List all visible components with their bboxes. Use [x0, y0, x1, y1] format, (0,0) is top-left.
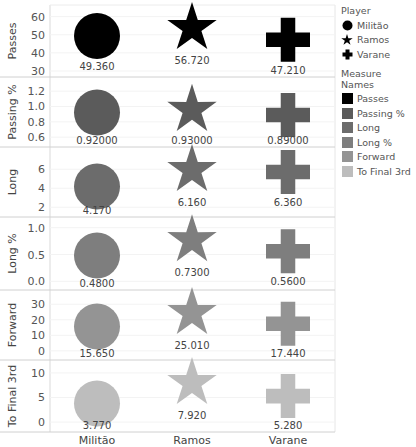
data-label: 4.170	[83, 205, 112, 216]
data-label: 7.920	[178, 410, 207, 421]
y-tick-label: 0	[38, 416, 45, 429]
cross-mark[interactable]	[266, 150, 310, 194]
data-label: 56.720	[175, 55, 210, 66]
legend-label: Long %	[357, 137, 392, 148]
x-tick-label: Ramos	[173, 434, 211, 447]
legend-label: Varane	[357, 49, 390, 60]
cross-mark[interactable]	[266, 18, 310, 62]
y-tick-label: 6	[38, 163, 45, 176]
star-mark[interactable]	[167, 144, 216, 191]
legend-label: Forward	[357, 151, 395, 162]
legend-item-varane[interactable]: Varane	[341, 47, 416, 62]
star-mark[interactable]	[167, 357, 216, 404]
color-swatch-icon	[342, 166, 353, 177]
star-mark[interactable]	[167, 287, 216, 334]
legend-label: To Final 3rd	[357, 166, 411, 177]
color-swatch-icon	[342, 93, 353, 104]
cross-mark[interactable]	[266, 93, 310, 137]
data-label: 0.7300	[175, 267, 210, 278]
color-swatch-icon	[342, 122, 353, 133]
data-label: 0.5600	[271, 276, 306, 287]
data-label: 0.4800	[80, 278, 115, 289]
y-tick-label: 50	[31, 29, 45, 42]
color-swatch-icon	[342, 137, 353, 148]
color-swatch-icon	[342, 151, 353, 162]
data-label: 25.010	[175, 340, 210, 351]
data-label: 47.210	[271, 65, 306, 76]
y-axis-label: Passing %	[6, 84, 19, 139]
data-label: 6.360	[274, 197, 303, 208]
legend-measure-title: Measure Names	[341, 68, 416, 90]
legend-item-long[interactable]: Long	[341, 121, 416, 136]
legend-label: Passing %	[357, 108, 405, 119]
y-axis-label: To Final 3rd	[6, 365, 19, 428]
star-icon	[341, 34, 353, 46]
cross-mark[interactable]	[266, 302, 310, 346]
y-tick-label: 0.5	[28, 249, 46, 262]
legend-item-passing-pct[interactable]: Passing %	[341, 106, 416, 121]
legend-item-to-final-3rd[interactable]: To Final 3rd	[341, 164, 416, 179]
y-tick-label: 0.0	[28, 275, 46, 288]
y-tick-label: 1.0	[28, 100, 46, 113]
y-tick-label: 10	[31, 329, 45, 342]
legend-item-ramos[interactable]: Ramos	[341, 33, 416, 48]
data-label: 0.89000	[267, 135, 308, 146]
data-label: 5.280	[274, 420, 303, 431]
legend: Player Militão Ramos Varane Measure Name…	[341, 5, 416, 179]
color-swatch-icon	[342, 108, 353, 119]
y-tick-label: 10	[31, 367, 45, 380]
y-tick-label: 1.2	[28, 85, 46, 98]
x-tick-label: Militão	[79, 434, 116, 447]
data-label: 0.92000	[76, 135, 117, 146]
legend-player-title: Player	[341, 5, 416, 16]
y-tick-label: 40	[31, 47, 45, 60]
legend-label: Passes	[357, 93, 389, 104]
data-label: 15.650	[80, 348, 115, 359]
y-axis-label: Long %	[6, 233, 19, 274]
y-axis-label: Passes	[6, 22, 19, 59]
y-tick-label: 4	[38, 182, 45, 195]
y-tick-label: 30	[31, 298, 45, 311]
circle-mark[interactable]	[74, 233, 120, 279]
star-mark[interactable]	[167, 2, 216, 49]
y-tick-label: 60	[31, 11, 45, 24]
y-tick-label: 20	[31, 314, 45, 327]
legend-item-long-pct[interactable]: Long %	[341, 135, 416, 150]
circle-mark[interactable]	[74, 90, 120, 136]
legend-item-militao[interactable]: Militão	[341, 18, 416, 33]
legend-item-passes[interactable]: Passes	[341, 92, 416, 107]
legend-label: Long	[357, 122, 380, 133]
data-label: 3.770	[83, 420, 112, 431]
circle-mark[interactable]	[74, 13, 120, 59]
y-tick-label: 0	[38, 345, 45, 358]
cross-icon	[341, 48, 353, 60]
y-tick-label: 2	[38, 201, 45, 214]
data-label: 17.440	[271, 348, 306, 359]
y-tick-label: 5	[38, 391, 45, 404]
x-tick-label: Varane	[269, 434, 308, 447]
legend-label: Ramos	[357, 34, 389, 45]
circle-mark[interactable]	[74, 164, 120, 210]
data-label: 49.360	[80, 61, 115, 72]
y-tick-label: 0.6	[28, 131, 46, 144]
y-tick-label: 1.0	[28, 222, 46, 235]
data-label: 6.160	[178, 197, 207, 208]
circle-mark[interactable]	[74, 304, 120, 350]
cross-mark[interactable]	[266, 229, 310, 273]
y-tick-label: 0.8	[28, 116, 46, 129]
legend-label: Militão	[357, 20, 388, 31]
circle-icon	[341, 19, 353, 31]
cross-mark[interactable]	[266, 374, 310, 418]
y-axis-label: Forward	[6, 303, 19, 347]
y-axis-label: Long	[6, 169, 19, 196]
legend-item-forward[interactable]: Forward	[341, 150, 416, 165]
y-tick-label: 30	[31, 65, 45, 78]
